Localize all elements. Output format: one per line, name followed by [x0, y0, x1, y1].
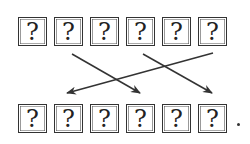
- bottom-box-5: ?: [162, 104, 191, 133]
- bottom-box-1: ?: [18, 104, 47, 133]
- arrow-3: [67, 53, 213, 93]
- arrow-1: [72, 54, 140, 93]
- bottom-box-4: ?: [126, 104, 155, 133]
- bottom-box-3: ?: [90, 104, 119, 133]
- trailing-period: [237, 123, 240, 126]
- arrow-2: [143, 54, 212, 93]
- bottom-box-2: ?: [54, 104, 83, 133]
- bottom-box-6: ?: [198, 104, 227, 133]
